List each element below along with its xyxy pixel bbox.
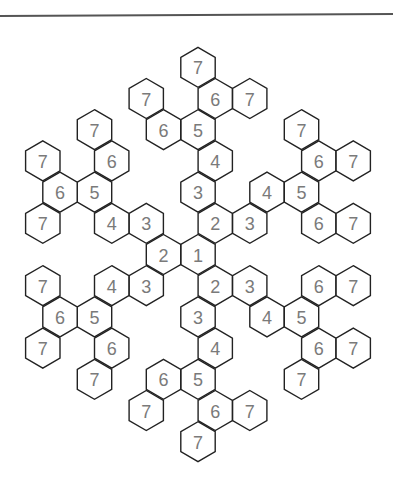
- hex-number-label: 2: [210, 214, 220, 234]
- hex-number-label: 4: [210, 152, 220, 172]
- hex-number-label: 7: [193, 433, 203, 453]
- hex-cell-7: 7: [336, 328, 370, 368]
- hex-number-label: 7: [38, 339, 48, 359]
- hex-number-label: 6: [107, 152, 117, 172]
- hex-number-label: 7: [348, 152, 358, 172]
- hex-number-label: 7: [245, 90, 255, 110]
- hex-number-label: 6: [314, 339, 324, 359]
- hex-number-label: 7: [141, 402, 151, 422]
- hex-number-label: 3: [193, 308, 203, 328]
- hex-number-label: 4: [262, 183, 272, 203]
- hex-number-label: 7: [38, 152, 48, 172]
- hex-number-label: 5: [296, 183, 306, 203]
- hexagon-cells: 1234567677345677672347566773475667723456…: [26, 47, 371, 461]
- hex-number-label: 6: [107, 339, 117, 359]
- hexagon-snowflake-diagram: 1234567677345677672347566773475667723456…: [0, 0, 393, 486]
- hex-number-label: 6: [55, 183, 65, 203]
- hex-number-label: 6: [314, 214, 324, 234]
- hex-number-label: 6: [210, 402, 220, 422]
- hex-number-label: 4: [107, 277, 117, 297]
- hex-number-label: 6: [158, 370, 168, 390]
- hex-number-label: 3: [141, 277, 151, 297]
- hex-number-label: 6: [314, 152, 324, 172]
- hex-number-label: 7: [296, 370, 306, 390]
- hex-number-label: 5: [89, 308, 99, 328]
- hex-number-label: 7: [193, 58, 203, 78]
- hex-number-label: 7: [89, 121, 99, 141]
- hex-number-label: 5: [296, 308, 306, 328]
- hex-number-label: 4: [107, 214, 117, 234]
- hex-number-label: 6: [210, 90, 220, 110]
- hex-number-label: 7: [348, 277, 358, 297]
- hex-number-label: 7: [38, 214, 48, 234]
- hex-number-label: 7: [348, 214, 358, 234]
- hex-number-label: 3: [245, 214, 255, 234]
- hex-number-label: 6: [55, 308, 65, 328]
- hex-number-label: 4: [262, 308, 272, 328]
- hex-cell-7: 7: [336, 266, 370, 306]
- hex-number-label: 4: [210, 339, 220, 359]
- hex-number-label: 7: [296, 121, 306, 141]
- hex-cell-7: 7: [233, 391, 267, 431]
- hex-cell-7: 7: [233, 79, 267, 119]
- hex-number-label: 2: [158, 246, 168, 266]
- hex-number-label: 6: [314, 277, 324, 297]
- hex-number-label: 3: [245, 277, 255, 297]
- hex-number-label: 5: [89, 183, 99, 203]
- hex-number-label: 5: [193, 121, 203, 141]
- hex-cell-7: 7: [336, 203, 370, 243]
- hex-number-label: 1: [193, 246, 203, 266]
- hex-number-label: 6: [158, 121, 168, 141]
- hex-number-label: 7: [38, 277, 48, 297]
- hex-number-label: 5: [193, 370, 203, 390]
- hex-number-label: 7: [245, 402, 255, 422]
- hex-number-label: 7: [348, 339, 358, 359]
- hex-cell-7: 7: [336, 141, 370, 181]
- hex-number-label: 3: [141, 214, 151, 234]
- hex-number-label: 2: [210, 277, 220, 297]
- hex-number-label: 7: [89, 370, 99, 390]
- hex-number-label: 3: [193, 183, 203, 203]
- hex-number-label: 7: [141, 90, 151, 110]
